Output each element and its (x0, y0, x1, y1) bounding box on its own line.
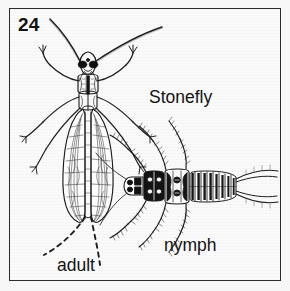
nymph-stonefly-illustration (10, 9, 281, 281)
figure-plate-root: 24 Stonefly nymph adult (0, 0, 290, 291)
figure-border-frame: 24 Stonefly nymph adult (9, 8, 281, 281)
nymph-stage-label: nymph (164, 237, 217, 255)
adult-stage-label: adult (57, 257, 95, 275)
figure-number: 24 (18, 15, 40, 34)
common-name-label: Stonefly (149, 89, 212, 107)
